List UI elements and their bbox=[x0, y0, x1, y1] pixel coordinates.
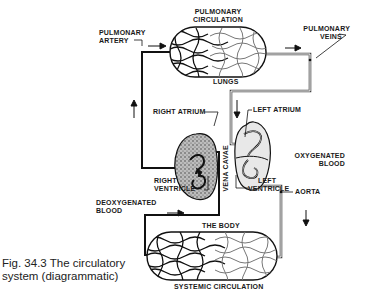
left-atrium-label: LEFT ATRIUM bbox=[253, 106, 301, 114]
deoxygenated-blood-line2: BLOOD bbox=[96, 207, 157, 215]
pulmonary-artery-line2: ARTERY bbox=[99, 37, 146, 45]
lungs-label: LUNGS bbox=[213, 78, 239, 86]
right-ventricle-label: RIGHT VENTRICLE bbox=[154, 177, 195, 193]
deoxygenated-blood-label: DEOXYGENATED BLOOD bbox=[96, 199, 157, 215]
right-ventricle-line1: RIGHT bbox=[154, 177, 195, 185]
left-ventricle-label: LEFT VENTRICLE bbox=[248, 177, 289, 193]
circulatory-diagram bbox=[0, 0, 365, 297]
the-body-label: THE BODY bbox=[202, 222, 240, 230]
pulmonary-veins-label: PULMONARY VEINS bbox=[290, 25, 350, 41]
oxygenated-blood-line1: OXYGENATED bbox=[285, 152, 345, 160]
aorta-label: AORTA bbox=[295, 188, 320, 196]
pulmonary-artery-line1: PULMONARY bbox=[99, 29, 146, 37]
deoxygenated-blood-line1: DEOXYGENATED bbox=[96, 199, 157, 207]
left-ventricle-line1: LEFT bbox=[248, 177, 289, 185]
figure-caption: Fig. 34.3 The circulatory system (diagra… bbox=[2, 257, 125, 283]
systemic-circulation-label: SYSTEMIC CIRCULATION bbox=[174, 283, 263, 291]
right-atrium-label: RIGHT ATRIUM bbox=[153, 108, 206, 116]
caption-line2: system (diagrammatic) bbox=[2, 270, 125, 283]
left-ventricle-line2: VENTRICLE bbox=[248, 185, 289, 193]
pulmonary-veins-marker bbox=[309, 59, 312, 62]
oxygenated-blood-line2: BLOOD bbox=[285, 160, 345, 168]
right-ventricle-line2: VENTRICLE bbox=[154, 185, 195, 193]
pulmonary-circulation-label: PULMONARY CIRCULATION bbox=[188, 8, 248, 24]
pulmonary-circulation-line1: PULMONARY bbox=[188, 8, 248, 16]
vena-cavae-label: VENA CAVAE bbox=[222, 145, 230, 192]
pulmonary-artery-label: PULMONARY ARTERY bbox=[99, 29, 146, 45]
pulmonary-veins-line1: PULMONARY bbox=[290, 25, 350, 33]
oxygenated-blood-label: OXYGENATED BLOOD bbox=[285, 152, 345, 168]
pulmonary-circulation-line2: CIRCULATION bbox=[188, 16, 248, 24]
pulmonary-veins-line2: VEINS bbox=[290, 33, 350, 41]
caption-line1: Fig. 34.3 The circulatory bbox=[2, 257, 125, 270]
